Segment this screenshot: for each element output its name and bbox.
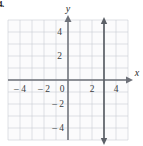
x-tick-label: 2 <box>90 84 95 94</box>
x-tick-label: – 2 <box>37 84 50 94</box>
y-axis-label: y <box>65 3 71 14</box>
y-tick-label: – 4 <box>51 123 64 133</box>
x-tick-label-origin: 0 <box>60 84 65 94</box>
y-tick-label: 2 <box>57 51 62 61</box>
x-tick-label: – 4 <box>13 84 26 94</box>
coordinate-plane-figure: 4. <box>0 0 143 146</box>
graph-svg: – 4 – 2 0 2 4 4 2 – 2 – 4 y x <box>0 0 143 146</box>
y-axis-arrowhead <box>65 15 72 22</box>
y-tick-label: 4 <box>57 27 62 37</box>
x-axis-arrowhead <box>126 77 133 84</box>
x-tick-label: 4 <box>114 84 119 94</box>
y-tick-label: – 2 <box>51 99 64 109</box>
x-axis-label: x <box>134 67 140 78</box>
graph-line-arrowhead-down <box>101 138 107 145</box>
